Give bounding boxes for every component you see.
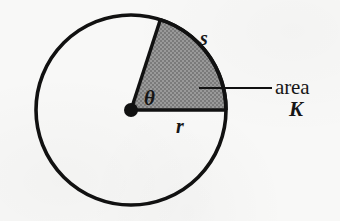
center-point-dot (124, 103, 138, 117)
figure-canvas: s θ r area K (0, 0, 340, 221)
radius-label: r (176, 116, 184, 136)
angle-theta-label: θ (144, 88, 155, 109)
area-symbol-label: K (289, 99, 303, 120)
area-word-label: area (275, 77, 310, 98)
arc-length-label: s (200, 28, 208, 48)
